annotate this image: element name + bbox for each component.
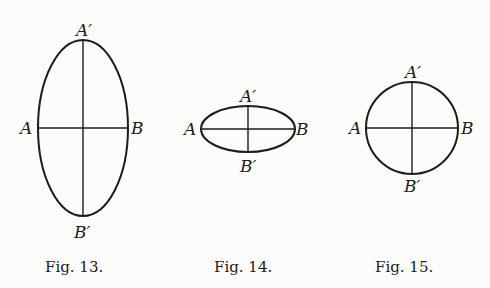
fig14-label-a-prime: A′ xyxy=(238,86,256,106)
fig14-caption: Fig. 14. xyxy=(214,258,272,276)
figure-14: A B A′ B′ Fig. 14. xyxy=(182,86,309,276)
fig13-label-b: B xyxy=(130,118,144,138)
fig13-label-a-prime: A′ xyxy=(74,20,92,40)
fig15-label-b: B xyxy=(460,118,474,138)
fig14-label-b-prime: B′ xyxy=(239,156,256,176)
figures-canvas: A B A′ B′ Fig. 13. A B A′ B′ Fig. 14. A … xyxy=(0,0,490,288)
fig14-label-b: B xyxy=(295,119,309,139)
fig13-label-b-prime: B′ xyxy=(73,222,90,242)
figure-15: A B A′ B′ Fig. 15. xyxy=(347,62,474,276)
fig15-label-b-prime: B′ xyxy=(403,176,420,196)
figure-13: A B A′ B′ Fig. 13. xyxy=(18,20,144,276)
fig15-label-a: A xyxy=(347,118,361,138)
fig15-caption: Fig. 15. xyxy=(375,258,433,276)
fig14-label-a: A xyxy=(182,119,196,139)
fig13-caption: Fig. 13. xyxy=(45,258,103,276)
fig13-label-a: A xyxy=(18,118,32,138)
fig15-label-a-prime: A′ xyxy=(403,62,421,82)
